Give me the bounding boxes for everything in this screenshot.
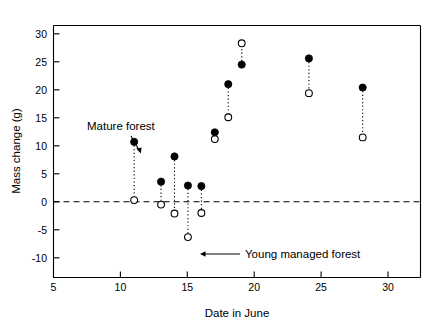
x-axis-title: Date in June <box>205 307 270 319</box>
annotation-mature-forest-label: Mature forest <box>87 120 156 132</box>
y-axis-ticks: 30 25 20 15 10 5 0 -5 -10 <box>32 28 60 264</box>
scatter-plot: 30 25 20 15 10 5 0 -5 -10 5 10 15 20 25 … <box>0 0 436 333</box>
annotation-young-managed-forest-arrowhead <box>200 251 206 257</box>
data-point-mature-forest <box>171 153 178 160</box>
data-points-layer <box>131 40 367 241</box>
data-point-young-managed-forest <box>171 210 178 217</box>
figure-container: 30 25 20 15 10 5 0 -5 -10 5 10 15 20 25 … <box>0 0 436 333</box>
data-point-young-managed-forest <box>306 90 313 97</box>
y-tick-label-10: 10 <box>35 140 47 152</box>
y-tick-label-minus10: -10 <box>32 252 47 264</box>
data-point-mature-forest <box>225 81 232 88</box>
data-point-young-managed-forest <box>185 234 192 241</box>
y-tick-label-15: 15 <box>35 112 47 124</box>
annotation-mature-forest: Mature forest <box>87 120 156 154</box>
data-point-mature-forest <box>184 182 191 189</box>
data-point-mature-forest <box>211 129 218 136</box>
data-point-mature-forest <box>157 178 164 185</box>
y-tick-label-30: 30 <box>35 28 47 40</box>
x-tick-label-10: 10 <box>115 281 127 293</box>
data-point-young-managed-forest <box>238 40 245 47</box>
data-point-young-managed-forest <box>225 114 232 121</box>
data-point-mature-forest <box>238 61 245 68</box>
axes-frame <box>54 26 421 278</box>
axis-spines <box>54 26 421 278</box>
y-tick-label-20: 20 <box>35 84 47 96</box>
annotation-young-managed-forest: Young managed forest <box>200 248 361 260</box>
x-axis-ticks: 5 10 15 20 25 30 <box>51 272 394 294</box>
data-point-young-managed-forest <box>131 197 138 204</box>
annotation-mature-forest-arrowhead <box>136 147 141 153</box>
y-tick-label-0: 0 <box>41 196 47 208</box>
y-tick-label-5: 5 <box>41 168 47 180</box>
data-point-mature-forest <box>198 183 205 190</box>
data-point-young-managed-forest <box>211 136 218 143</box>
y-tick-label-25: 25 <box>35 56 47 68</box>
x-tick-label-15: 15 <box>181 281 193 293</box>
y-axis-title: Mass change (g) <box>10 108 22 194</box>
x-tick-label-30: 30 <box>382 281 394 293</box>
data-point-young-managed-forest <box>158 201 165 208</box>
x-tick-label-5: 5 <box>51 281 57 293</box>
x-tick-label-25: 25 <box>315 281 327 293</box>
data-point-mature-forest <box>359 84 366 91</box>
data-point-mature-forest <box>305 55 312 62</box>
data-point-young-managed-forest <box>359 134 366 141</box>
x-tick-label-20: 20 <box>248 281 260 293</box>
y-tick-label-minus5: -5 <box>38 224 47 236</box>
annotation-young-managed-forest-label: Young managed forest <box>245 248 361 260</box>
data-point-young-managed-forest <box>198 210 205 217</box>
